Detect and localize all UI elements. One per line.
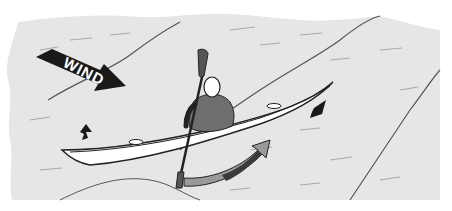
paddler-head — [204, 77, 220, 97]
illustration-svg: WIND — [0, 0, 452, 211]
kayak-wind-illustration: WIND — [0, 0, 452, 211]
